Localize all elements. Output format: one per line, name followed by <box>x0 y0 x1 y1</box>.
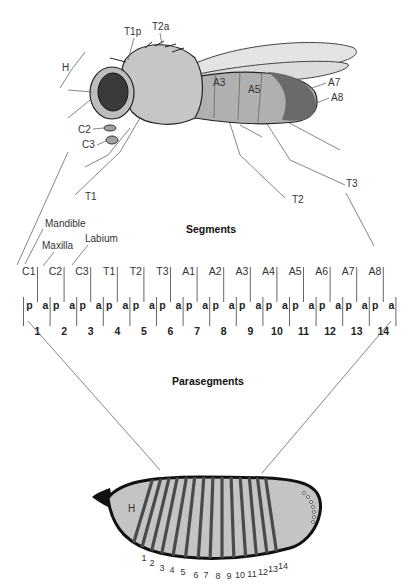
label-c3: C3 <box>82 139 95 150</box>
embryo-stripe-number: 13 <box>268 564 278 574</box>
label-t3: T3 <box>346 178 358 189</box>
compartment-posterior: p <box>319 299 325 311</box>
segment-label: A8 <box>368 265 381 277</box>
label-a8: A8 <box>331 92 344 103</box>
compartment-posterior: p <box>133 299 139 311</box>
embryo-stripe-number: 10 <box>235 570 245 580</box>
segment-label: C1 <box>22 265 36 277</box>
embryo-stripe-number: 2 <box>149 558 154 568</box>
embryo-head-label: H <box>128 503 135 514</box>
compartment-anterior: a <box>202 299 208 311</box>
segment-label: A2 <box>209 265 222 277</box>
label-mandible: Mandible <box>45 218 86 229</box>
compartment-posterior: p <box>26 299 32 311</box>
compartment-anterior: a <box>43 299 49 311</box>
parasegment-number: 12 <box>324 325 336 337</box>
parasegment-number: 5 <box>141 325 147 337</box>
compartment-posterior: p <box>186 299 192 311</box>
mouthpart-labels: Mandible Maxilla Labium <box>25 218 118 266</box>
compartment-anterior: a <box>122 299 128 311</box>
compartment-anterior: a <box>309 299 315 311</box>
segment-label: T1 <box>103 265 115 277</box>
parasegment-number: 2 <box>61 325 67 337</box>
guide-line-embryo-left <box>28 321 160 470</box>
label-a7: A7 <box>328 77 341 88</box>
segment-label: A5 <box>289 265 302 277</box>
parasegment-number: 6 <box>168 325 174 337</box>
compartment-anterior: a <box>176 299 182 311</box>
label-maxilla: Maxilla <box>42 240 74 251</box>
compartment-anterior: a <box>282 299 288 311</box>
embryo-stripe-number: 3 <box>159 563 164 573</box>
embryo-stripe-number: 8 <box>215 571 220 581</box>
compartment-anterior: a <box>255 299 261 311</box>
compound-eye <box>98 73 128 111</box>
mouthpart-c3 <box>106 136 118 144</box>
parasegment-number: 3 <box>88 325 94 337</box>
segment-label: A4 <box>262 265 275 277</box>
parasegment-number: 10 <box>271 325 283 337</box>
compartment-posterior: p <box>106 299 112 311</box>
parasegment-number: 13 <box>351 325 363 337</box>
antenna <box>68 90 92 92</box>
segment-label: A3 <box>235 265 248 277</box>
compartment-anterior: a <box>362 299 368 311</box>
compartment-posterior: p <box>345 299 351 311</box>
label-a5: A5 <box>248 84 261 95</box>
adult-fly-illustration <box>68 41 356 198</box>
parasegment-number: 9 <box>247 325 253 337</box>
compartment-posterior: p <box>159 299 165 311</box>
embryo-stripe-number: 11 <box>247 569 256 579</box>
segment-label: A7 <box>342 265 355 277</box>
compartment-posterior: p <box>266 299 272 311</box>
embryo-stripe-number: 7 <box>203 570 208 580</box>
embryo-stripe-number: 4 <box>169 565 174 575</box>
label-c2: C2 <box>78 124 91 135</box>
compartment-anterior: a <box>335 299 341 311</box>
segment-label: C3 <box>75 265 89 277</box>
mouthpart-c2 <box>104 125 116 131</box>
leg-t2-far <box>240 125 262 137</box>
embryo-stripe-number: 6 <box>193 570 198 580</box>
segmentation-diagram: H T1p T2a C2 C3 T1 T2 T3 A3 A5 A7 A8 Man… <box>0 0 411 587</box>
segment-label: C2 <box>49 265 63 277</box>
parasegment-number: 11 <box>298 325 309 337</box>
parasegment-number: 7 <box>194 325 200 337</box>
segment-label-row: C1C2C3T1T2T3A1A2A3A4A5A6A7A8 <box>22 265 383 302</box>
label-t1: T1 <box>85 191 97 202</box>
compartment-posterior: p <box>53 299 59 311</box>
parasegment-number: 8 <box>221 325 227 337</box>
embryo-stripe-number: 5 <box>180 567 185 577</box>
compartment-posterior: p <box>212 299 218 311</box>
antenna <box>68 100 90 118</box>
embryo-stripe-number: 14 <box>278 561 288 571</box>
segment-label: A1 <box>182 265 195 277</box>
segments-title: Segments <box>186 223 236 235</box>
label-labium: Labium <box>85 233 118 244</box>
compartment-anterior: a <box>229 299 235 311</box>
label-t1p: T1p <box>124 26 142 37</box>
parasegment-number: 4 <box>114 325 120 337</box>
guide-line-embryo-right <box>262 321 391 473</box>
label-t2a: T2a <box>152 21 170 32</box>
compartment-posterior: p <box>239 299 245 311</box>
compartment-posterior: p <box>372 299 378 311</box>
compartment-anterior: a <box>69 299 75 311</box>
embryo-stripe-number: 9 <box>226 571 231 581</box>
compartment-posterior: p <box>79 299 85 311</box>
compartment-anterior: a <box>388 299 394 311</box>
embryo-stripe-number: 12 <box>258 567 268 577</box>
compartment-row: papapapapapapapapapapapapapa <box>26 299 394 311</box>
label-head: H <box>62 62 69 73</box>
compartment-anterior: a <box>96 299 102 311</box>
embryo-illustration: H <box>92 474 321 562</box>
segment-label: A6 <box>315 265 328 277</box>
guide-line-right <box>346 193 374 246</box>
parasegments-title: Parasegments <box>172 375 244 387</box>
segment-label: T2 <box>130 265 142 277</box>
parasegment-number: 1 <box>35 325 41 337</box>
segment-label: T3 <box>156 265 168 277</box>
embryo-stripe-number: 1 <box>141 553 146 563</box>
compartment-anterior: a <box>149 299 155 311</box>
compartment-posterior: p <box>292 299 298 311</box>
